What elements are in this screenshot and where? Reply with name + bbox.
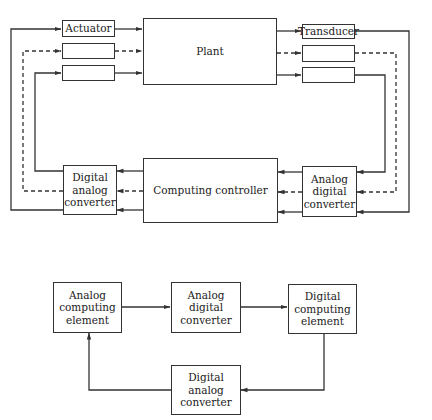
bottom-dac-label: Digital analog converter (180, 371, 232, 409)
actuator-label: Actuator (65, 22, 111, 35)
actuator-block: Actuator (62, 20, 115, 37)
computing-controller-block: Computing controller (143, 158, 278, 223)
transducer-block-2 (302, 45, 355, 62)
dac-label: Digital analog converter (64, 171, 116, 209)
transducer-block-3 (302, 67, 355, 83)
digital-computing-element-block: Digital computing element (288, 284, 357, 334)
actuator-block-2 (62, 43, 115, 59)
digital-computing-element-label: Digital computing element (294, 290, 351, 328)
plant-block: Plant (143, 18, 277, 85)
bottom-adc-label: Analog digital converter (180, 289, 232, 327)
transducer-block: Transducer (302, 24, 355, 39)
adc-block: Analog digital converter (302, 166, 357, 217)
computing-controller-label: Computing controller (153, 184, 268, 197)
actuator-block-3 (62, 65, 115, 81)
bottom-dac-block: Digital analog converter (171, 365, 241, 415)
dac-block: Digital analog converter (63, 165, 117, 215)
analog-computing-element-label: Analog computing element (59, 289, 116, 327)
plant-label: Plant (196, 45, 224, 58)
transducer-label: Transducer (298, 25, 359, 38)
adc-label: Analog digital converter (304, 173, 356, 211)
analog-computing-element-block: Analog computing element (53, 282, 122, 333)
bottom-adc-block: Analog digital converter (171, 282, 241, 333)
